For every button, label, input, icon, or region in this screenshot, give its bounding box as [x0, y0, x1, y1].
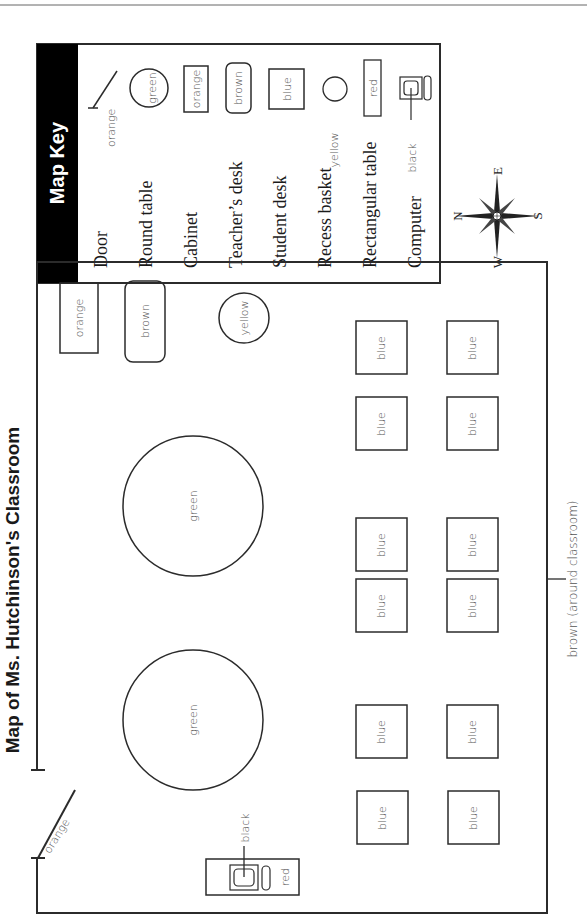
key-color-recess-basket: yellow — [328, 132, 341, 167]
key-label-cabinet: Cabinet — [181, 212, 201, 268]
key-label-student-desk: Student desk — [270, 176, 290, 269]
map-key: Map Key Door orange Round table green Ca… — [37, 44, 440, 283]
student-desks: blue blue blue blue blue blue blue blue … — [356, 321, 499, 844]
student-desk-label: blue — [375, 533, 388, 557]
computer-color-label: black — [239, 813, 252, 843]
round-table-color-label: green — [187, 704, 200, 735]
compass-south-label: S — [530, 212, 545, 219]
student-desk-label: blue — [375, 336, 388, 360]
key-color-student-desk: blue — [281, 77, 294, 101]
page-title: Map of Ms. Hutchinson's Classroom — [2, 427, 23, 754]
student-desk-label: blue — [466, 720, 479, 744]
classroom-map: orange brown (around classroom) orange b… — [31, 262, 580, 913]
teachers-desk-color-label: brown — [139, 304, 152, 338]
key-color-computer: black — [406, 143, 419, 173]
recess-basket-color-label: yellow — [238, 300, 251, 335]
key-color-rectangular-table: red — [367, 79, 380, 97]
key-color-door: orange — [105, 109, 118, 147]
student-desk-label: blue — [376, 806, 389, 830]
key-label-computer: Computer — [405, 196, 425, 268]
compass-north-label: N — [450, 211, 465, 221]
computer-icon — [230, 846, 270, 890]
key-label-rectangular-table: Rectangular table — [360, 142, 380, 268]
student-desk-label: blue — [375, 720, 388, 744]
student-desk-label: blue — [466, 594, 479, 618]
map-key-title: Map Key — [46, 121, 68, 204]
compass-rose-icon: N S E W — [450, 167, 545, 268]
door-color-label: orange — [41, 816, 72, 855]
student-desk-label: blue — [466, 336, 479, 360]
key-color-round-table: green — [146, 72, 159, 103]
classroom-map-page: Map of Ms. Hutchinson's Classroom Map Ke… — [0, 0, 587, 921]
key-label-teachers-desk: Teacher’s desk — [226, 161, 246, 268]
student-desk-label: blue — [375, 412, 388, 436]
key-label-round-table: Round table — [136, 181, 156, 269]
key-label-recess-basket: Recess basket — [315, 168, 335, 268]
key-color-teachers-desk: brown — [232, 71, 245, 105]
key-color-cabinet: orange — [190, 70, 203, 108]
cabinet-color-label: orange — [73, 299, 86, 337]
wall-color-label: brown (around classroom) — [566, 500, 580, 657]
student-desk-label: blue — [466, 412, 479, 436]
student-desk-label: blue — [467, 806, 480, 830]
rectangular-table-color-label: red — [279, 868, 292, 886]
student-desk-label: blue — [466, 533, 479, 557]
compass-east-label: E — [490, 167, 505, 175]
round-table-color-label: green — [187, 490, 200, 521]
student-desk-label: blue — [375, 594, 388, 618]
